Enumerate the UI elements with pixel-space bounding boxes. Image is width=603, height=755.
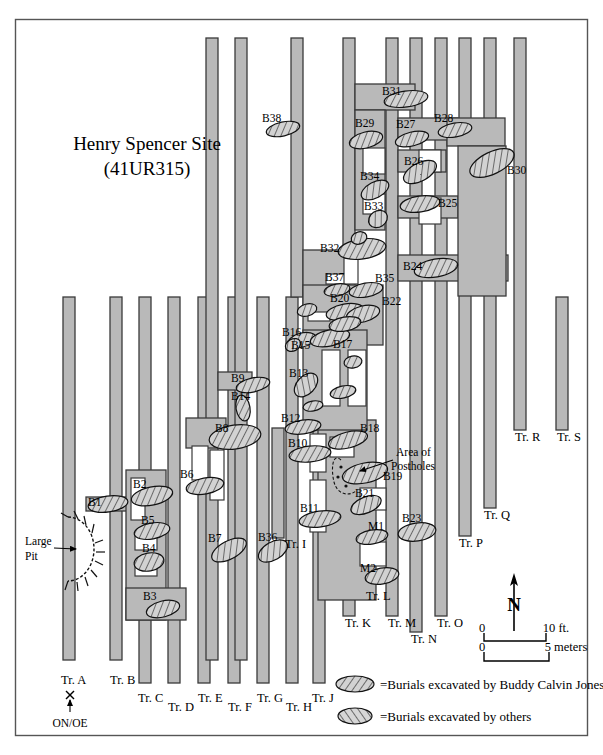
- burial-label-b32: B32: [320, 242, 339, 254]
- burial-label-b36: B36: [258, 531, 277, 543]
- title-line-1: Henry Spencer Site: [73, 133, 221, 154]
- legend-item-0-text: =Burials excavated by Buddy Calvin Jones: [380, 677, 603, 692]
- burial-label-b12: B12: [281, 412, 300, 424]
- scale-meters-zero: 0: [479, 640, 485, 654]
- large-pit-label-line2: Pit: [25, 550, 39, 562]
- burial-label-b20: B20: [330, 292, 349, 304]
- trench-label-o: Tr. O: [437, 616, 463, 630]
- burial-label-b29: B29: [355, 117, 374, 129]
- trench-label-s: Tr. S: [557, 430, 581, 444]
- trench-s: [556, 297, 568, 430]
- trench-label-j: Tr. J: [312, 691, 334, 705]
- trench-label-m: Tr. M: [388, 616, 416, 630]
- burial-label-b15: B15: [291, 339, 310, 351]
- burial-label-b24: B24: [403, 260, 422, 272]
- burials-jones-swatch: [336, 676, 374, 692]
- burial-label-b1: B1: [88, 496, 102, 508]
- trench-a: [63, 297, 75, 660]
- burial-label-b17: B17: [333, 338, 352, 350]
- burial-label-b27: B27: [396, 118, 415, 130]
- burial-label-b21: B21: [355, 487, 374, 499]
- burial-label-b34: B34: [360, 170, 379, 182]
- burial-label-b16: B16: [282, 326, 301, 338]
- burial-label-b19: B19: [383, 470, 402, 482]
- trench-t2: [235, 38, 247, 660]
- trench-label-g: Tr. G: [257, 691, 283, 705]
- trench-label-b: Tr. B: [110, 673, 135, 687]
- burial-label-b11: B11: [300, 502, 319, 514]
- trench-b: [110, 297, 122, 660]
- burial-label-b28: B28: [434, 112, 453, 124]
- trench-label-h: Tr. H: [286, 700, 312, 714]
- burial-label-b26: B26: [404, 155, 423, 167]
- trench-label-f: Tr. F: [228, 700, 252, 714]
- trench-label-q: Tr. Q: [484, 508, 510, 522]
- burial-label-b8: B8: [215, 422, 229, 434]
- burial-label-b31: B31: [382, 85, 401, 97]
- burial-label-b30: B30: [507, 164, 526, 176]
- postholes-label-line1: Area of: [396, 446, 431, 458]
- burial-label-b4: B4: [142, 542, 156, 554]
- burial-label-b14: B14: [231, 390, 250, 402]
- datum-label: ON/OE: [52, 717, 87, 729]
- burial-label-m2: M2: [360, 562, 376, 574]
- burials-others-swatch: [338, 708, 372, 724]
- cutout-4: [192, 446, 208, 480]
- trench-label-e: Tr. E: [198, 691, 223, 705]
- scale-feet-zero: 0: [479, 621, 485, 635]
- plan-drawing: N 0 10 ft. 0 5 meters =Burials excavated…: [0, 0, 603, 755]
- burial-label-b7: B7: [208, 532, 222, 544]
- burial-label-b25: B25: [438, 197, 457, 209]
- burial-label-b2: B2: [133, 478, 147, 490]
- north-arrow-label: N: [507, 594, 521, 615]
- scale-feet-value: 10 ft.: [543, 621, 569, 635]
- trench-label-k: Tr. K: [345, 616, 371, 630]
- burial-label-b9: B9: [231, 372, 245, 384]
- burial-label-b22: B22: [382, 295, 401, 307]
- burial-label-b23: B23: [402, 512, 421, 524]
- burial-label-b35: B35: [375, 272, 394, 284]
- trench-r: [514, 38, 526, 430]
- trench-label-r: Tr. R: [515, 430, 541, 444]
- trench-label-c: Tr. C: [138, 691, 163, 705]
- trench-label-a: Tr. A: [61, 673, 86, 687]
- site-plan-map: N 0 10 ft. 0 5 meters =Burials excavated…: [0, 0, 603, 755]
- trench-label-p: Tr. P: [459, 536, 483, 550]
- burial-label-b3: B3: [143, 590, 157, 602]
- trench-t3: [291, 38, 303, 297]
- cutout-20: [344, 258, 358, 284]
- burial-label-b38: B38: [262, 112, 281, 124]
- scale-meters-value: 5 meters: [545, 640, 588, 654]
- burial-label-b33: B33: [364, 200, 383, 212]
- burial-label-b5: B5: [141, 514, 155, 526]
- trench-label-d: Tr. D: [168, 700, 194, 714]
- burial-label-b6: B6: [180, 468, 194, 480]
- burial-label-b13: B13: [289, 367, 308, 379]
- trench-label-i: Tr. I: [285, 537, 306, 551]
- burial-label-m1: M1: [368, 520, 384, 532]
- burial-label-b18: B18: [360, 422, 379, 434]
- large-pit-label-line1: Large: [25, 535, 52, 548]
- burial-label-b37: B37: [325, 271, 344, 283]
- trench-label-l: Tr. L: [366, 589, 391, 603]
- legend-item-1-text: =Burials excavated by others: [380, 709, 531, 724]
- title-line-2: (41UR315): [104, 158, 191, 180]
- trench-label-n: Tr. N: [411, 632, 437, 646]
- burial-label-b10: B10: [288, 437, 307, 449]
